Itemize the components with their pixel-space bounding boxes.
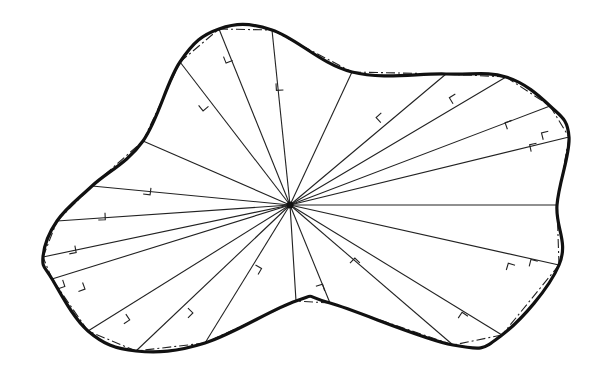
chord-line — [502, 265, 559, 335]
ray-line — [43, 205, 290, 257]
ray-line — [290, 205, 296, 301]
rays-group — [43, 29, 569, 351]
right-angle-mark — [58, 280, 65, 289]
ray-line — [290, 205, 453, 345]
chord-line — [88, 331, 136, 351]
right-angle-mark — [69, 246, 76, 254]
right-angle-mark — [188, 308, 193, 318]
right-angle-mark — [376, 113, 381, 123]
ray-line — [290, 205, 502, 335]
right-angle-mark — [505, 120, 512, 129]
right-angle-mark — [98, 213, 105, 220]
diagram-canvas — [0, 0, 601, 388]
ray-line — [272, 30, 290, 205]
right-angle-mark — [506, 263, 515, 270]
ray-line — [92, 186, 290, 205]
right-angle-mark — [449, 94, 455, 104]
ray-line — [88, 205, 290, 331]
right-angle-mark — [530, 143, 537, 151]
right-angle-mark — [541, 131, 548, 140]
right-angle-mark — [316, 284, 325, 291]
right-angle-mark — [255, 265, 261, 275]
ray-line — [290, 137, 569, 205]
right-angle-mark — [199, 105, 209, 110]
center-point — [287, 202, 294, 209]
ray-line — [290, 74, 446, 205]
ray-line — [52, 205, 290, 279]
chord-line — [180, 29, 219, 62]
right-angle-mark — [78, 283, 85, 292]
right-angle-mark — [529, 259, 538, 266]
dash-dot-chords-group — [43, 29, 569, 351]
ray-line — [290, 205, 559, 265]
ray-line — [180, 62, 290, 205]
ray-line — [290, 77, 506, 205]
closed-curve-outline — [43, 24, 569, 351]
radial-triangulation-diagram — [0, 0, 601, 388]
right-angle-mark — [124, 314, 130, 324]
ray-line — [57, 205, 290, 221]
